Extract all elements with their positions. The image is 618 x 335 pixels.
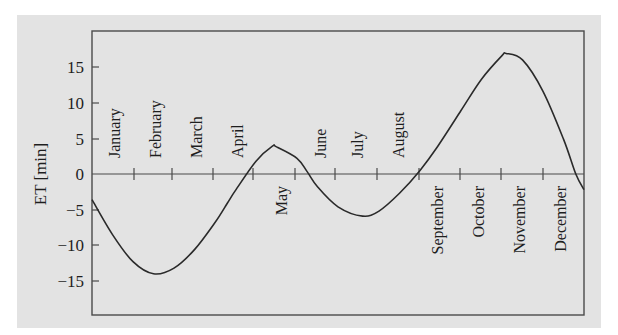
month-label-february: February [147,100,165,158]
ytick-label: −10 [57,236,84,255]
month-label-january: January [106,108,124,158]
month-label-december: December [552,185,569,251]
ytick-label: 0 [76,165,85,184]
ytick-label: 10 [67,94,84,113]
month-label-october: October [470,185,487,237]
y-axis-label: ET [min] [31,143,50,205]
ytick-label: 15 [67,58,84,77]
equation-of-time-chart: 15 10 5 0 −5 −10 −15 ET [min] January Fe… [0,0,618,335]
month-label-november: November [511,185,528,253]
month-label-june: June [312,129,329,158]
month-label-july: July [349,131,367,158]
ytick-label: 5 [76,130,85,149]
month-label-september: September [429,185,447,254]
month-label-april: April [229,124,247,158]
month-label-august: August [390,111,408,158]
month-label-may: May [273,186,291,215]
month-label-march: March [188,116,205,158]
ytick-label: −5 [66,201,84,220]
ytick-label: −15 [57,272,84,291]
